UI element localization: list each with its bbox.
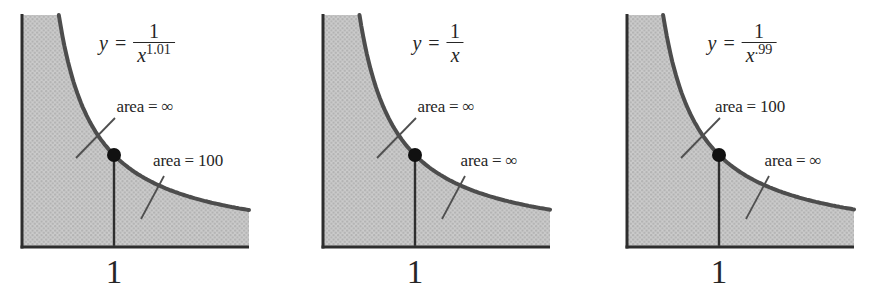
equation-fraction: 1 x1.01 xyxy=(133,20,175,67)
fraction-base: x xyxy=(451,44,460,66)
upper-area-label: area = ∞ xyxy=(418,97,475,117)
x-tick-label: 1 xyxy=(711,256,728,289)
equation: y = 1 x.99 xyxy=(708,20,777,67)
equation: y = 1 x xyxy=(412,20,463,67)
fraction-base: x xyxy=(746,44,755,66)
point-marker xyxy=(408,148,422,162)
upper-area-label: area = ∞ xyxy=(117,97,174,117)
fraction-numerator: 1 xyxy=(752,20,766,42)
fraction-numerator: 1 xyxy=(147,20,161,42)
fraction-numerator: 1 xyxy=(448,20,462,42)
x-tick-label: 1 xyxy=(106,256,123,289)
equation-lhs: y xyxy=(99,32,108,55)
equation-equals: = xyxy=(723,32,734,55)
equation-equals: = xyxy=(428,32,439,55)
panel-power-1-01: y = 1 x1.01 area = ∞ area = 100 1 xyxy=(0,0,268,293)
equation-fraction: 1 x.99 xyxy=(742,20,777,67)
equation-lhs: y xyxy=(708,32,717,55)
equation-fraction: 1 x xyxy=(447,20,464,67)
panel-power-0-99: y = 1 x.99 area = 100 area = ∞ 1 xyxy=(605,0,873,293)
x-tick-label: 1 xyxy=(407,256,424,289)
fraction-denominator: x1.01 xyxy=(133,42,175,66)
lower-area-label: area = ∞ xyxy=(765,151,822,171)
equation-equals: = xyxy=(115,32,126,55)
upper-area-label: area = 100 xyxy=(715,97,785,117)
equation: y = 1 x1.01 xyxy=(99,20,175,67)
fraction-exponent: 1.01 xyxy=(146,42,171,58)
fraction-exponent: .99 xyxy=(755,42,773,58)
point-marker xyxy=(107,148,121,162)
lower-area-label: area = ∞ xyxy=(461,151,518,171)
fraction-base: x xyxy=(137,44,146,66)
point-marker xyxy=(712,148,726,162)
improper-integral-figure: y = 1 x1.01 area = ∞ area = 100 1 y = 1 xyxy=(0,0,874,293)
panel-power-1: y = 1 x area = ∞ area = ∞ 1 xyxy=(301,0,569,293)
lower-area-label: area = 100 xyxy=(153,151,223,171)
fraction-denominator: x xyxy=(447,42,464,66)
fraction-denominator: x.99 xyxy=(742,42,777,66)
equation-lhs: y xyxy=(412,32,421,55)
